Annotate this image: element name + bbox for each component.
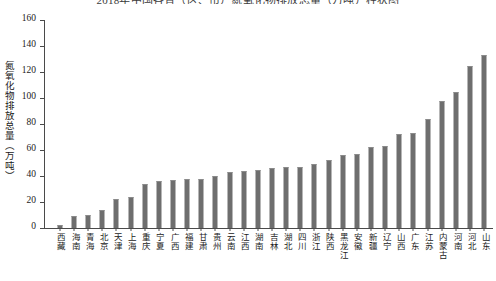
x-tick (187, 228, 188, 231)
x-tick-label: 湖南 (253, 233, 262, 251)
bar-item: 青海 (81, 20, 95, 228)
bar (171, 180, 176, 228)
bar-item: 上海 (124, 20, 138, 228)
x-tick (286, 228, 287, 231)
y-tick-label: 20 (27, 195, 37, 205)
bar (326, 160, 331, 228)
x-tick (300, 228, 301, 231)
bar (453, 92, 458, 229)
x-tick (116, 228, 117, 231)
y-tick-label: 40 (27, 169, 37, 179)
bar (227, 172, 232, 228)
bar-item: 天津 (109, 20, 123, 228)
bar (128, 197, 133, 228)
x-tick-label: 北京 (98, 233, 107, 251)
x-tick (314, 228, 315, 231)
x-tick (371, 228, 372, 231)
x-tick (342, 228, 343, 231)
y-tick-label: 0 (31, 221, 36, 231)
bar (255, 170, 260, 229)
bar (199, 179, 204, 228)
x-tick-label: 重庆 (140, 233, 149, 251)
x-tick-label: 广东 (409, 233, 418, 251)
x-tick-label: 山西 (395, 233, 404, 251)
y-tick-label: 160 (22, 13, 36, 23)
x-tick (385, 228, 386, 231)
bar-item: 河南 (449, 20, 463, 228)
x-tick-label: 江苏 (423, 233, 432, 251)
bar-item: 甘肃 (194, 20, 208, 228)
y-tick-label: 120 (22, 65, 36, 75)
bar (369, 147, 374, 228)
bar (482, 55, 487, 228)
bar-item: 西藏 (53, 20, 67, 228)
bar-item: 云南 (223, 20, 237, 228)
y-tick-label: 140 (22, 39, 36, 49)
bar (114, 199, 119, 228)
x-tick-label: 甘肃 (197, 233, 206, 251)
x-tick (399, 228, 400, 231)
x-tick-label: 辽宁 (381, 233, 390, 251)
y-tick-label: 80 (27, 117, 37, 127)
x-tick-label: 福建 (183, 233, 192, 251)
x-tick-label: 安徽 (352, 233, 361, 251)
x-tick (88, 228, 89, 231)
x-tick-label: 湖北 (282, 233, 291, 251)
bar-item: 河北 (463, 20, 477, 228)
x-tick-label: 吉林 (267, 233, 276, 251)
y-tick-label: 60 (27, 143, 37, 153)
x-tick (455, 228, 456, 231)
bar (185, 179, 190, 228)
bar (241, 171, 246, 228)
x-tick-label: 西藏 (55, 233, 64, 251)
x-tick (215, 228, 216, 231)
bar (425, 119, 430, 228)
bar-item: 吉林 (265, 20, 279, 228)
bar-item: 辽宁 (378, 20, 392, 228)
bar-item: 宁夏 (152, 20, 166, 228)
x-tick (328, 228, 329, 231)
x-tick (484, 228, 485, 231)
bar-item: 江西 (237, 20, 251, 228)
bar-item: 重庆 (138, 20, 152, 228)
bar (340, 155, 345, 228)
bar-item: 广西 (166, 20, 180, 228)
x-tick (158, 228, 159, 231)
bar (284, 167, 289, 228)
x-tick (173, 228, 174, 231)
bar-item: 新疆 (364, 20, 378, 228)
x-tick-label: 上海 (126, 233, 135, 251)
bar-item: 浙江 (307, 20, 321, 228)
x-tick-label: 云南 (225, 233, 234, 251)
bar (156, 181, 161, 228)
bar (71, 216, 76, 228)
bar-item: 广东 (406, 20, 420, 228)
x-tick (130, 228, 131, 231)
x-tick-label: 天津 (112, 233, 121, 251)
bar (298, 167, 303, 228)
bar (213, 176, 218, 228)
x-tick-label: 海南 (69, 233, 78, 251)
x-tick (243, 228, 244, 231)
y-axis-label: 氮氧化物排放总量（万吨） (1, 36, 17, 206)
x-tick (59, 228, 60, 231)
x-tick (201, 228, 202, 231)
bar-item: 山东 (477, 20, 491, 228)
x-tick-label: 河南 (451, 233, 460, 251)
x-tick (427, 228, 428, 231)
x-tick-label: 浙江 (310, 233, 319, 251)
x-tick-label: 宁夏 (154, 233, 163, 251)
bar-item: 湖北 (279, 20, 293, 228)
bar (100, 210, 105, 228)
bar-series: 西藏海南青海北京天津上海重庆宁夏广西福建甘肃贵州云南江西湖南吉林湖北四川浙江陕西… (45, 20, 492, 228)
x-axis-line (44, 228, 493, 229)
plot-area: 020406080100120140160 西藏海南青海北京天津上海重庆宁夏广西… (44, 20, 492, 228)
x-tick (229, 228, 230, 231)
x-tick-label: 陕西 (324, 233, 333, 251)
bar-item: 贵州 (208, 20, 222, 228)
y-tick-label: 100 (22, 91, 36, 101)
bar (439, 101, 444, 228)
x-tick-label: 河北 (465, 233, 474, 251)
x-tick (356, 228, 357, 231)
x-tick-label: 广西 (168, 233, 177, 251)
